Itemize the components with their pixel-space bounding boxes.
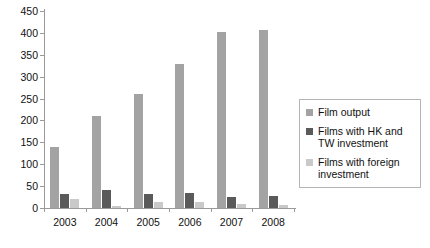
- legend-item-label: Films with foreign investment: [318, 156, 415, 180]
- bar: [60, 194, 69, 208]
- legend-item: Film output: [306, 106, 415, 118]
- bar: [195, 202, 204, 208]
- bar: [102, 190, 111, 208]
- legend-item-label: Film output: [318, 106, 370, 118]
- y-axis-label: 300: [20, 71, 38, 82]
- y-axis-tick: [40, 186, 44, 187]
- chart-legend: Film outputFilms with HK and TW investme…: [299, 99, 421, 188]
- y-axis-tick: [40, 33, 44, 34]
- bar: [70, 199, 79, 208]
- x-axis-label: 2005: [136, 217, 159, 228]
- x-axis-label: 2004: [95, 217, 118, 228]
- x-axis-label: 2008: [261, 217, 284, 228]
- legend-swatch-icon: [306, 159, 313, 166]
- y-axis-label: 350: [20, 50, 38, 61]
- x-axis-tick: [252, 208, 253, 212]
- x-axis-tick: [169, 208, 170, 212]
- bar: [154, 202, 163, 208]
- y-axis-tick: [40, 120, 44, 121]
- legend-item-label: Films with HK and TW investment: [318, 125, 415, 149]
- bar: [237, 204, 246, 208]
- y-axis-label: 250: [20, 93, 38, 104]
- bar: [269, 196, 278, 208]
- y-axis-tick: [40, 164, 44, 165]
- x-axis-label: 2006: [178, 217, 201, 228]
- y-axis-label: 450: [20, 6, 38, 17]
- x-axis-tick: [211, 208, 212, 212]
- plot-area: 050100150200250300350400450 200320042005…: [44, 11, 294, 208]
- bar: [92, 116, 101, 208]
- bar: [259, 30, 268, 208]
- y-axis-label: 0: [32, 203, 38, 214]
- y-axis-label: 400: [20, 28, 38, 39]
- legend-swatch-icon: [306, 109, 313, 116]
- x-axis-line: [40, 208, 296, 209]
- x-axis-tick: [294, 208, 295, 212]
- legend-swatch-icon: [306, 128, 313, 135]
- x-axis-tick: [86, 208, 87, 212]
- x-axis-label: 2007: [220, 217, 243, 228]
- legend-item: Films with foreign investment: [306, 156, 415, 180]
- bar: [227, 197, 236, 208]
- bar: [144, 194, 153, 208]
- bar: [185, 193, 194, 208]
- y-axis-label: 50: [26, 181, 38, 192]
- x-axis-tick: [44, 208, 45, 212]
- bar: [50, 147, 59, 208]
- y-axis-label: 200: [20, 115, 38, 126]
- bar: [134, 94, 143, 208]
- y-axis-tick: [40, 99, 44, 100]
- y-axis-tick: [40, 142, 44, 143]
- y-axis-tick: [40, 77, 44, 78]
- bar: [279, 205, 288, 209]
- x-axis-label: 2003: [53, 217, 76, 228]
- y-axis-tick: [40, 11, 44, 12]
- bar: [175, 64, 184, 208]
- y-axis-tick: [40, 55, 44, 56]
- y-axis-label: 150: [20, 137, 38, 148]
- bar: [217, 32, 226, 208]
- bar-chart: 050100150200250300350400450 200320042005…: [0, 0, 430, 248]
- legend-item: Films with HK and TW investment: [306, 125, 415, 149]
- x-axis-tick: [127, 208, 128, 212]
- y-axis-label: 100: [20, 159, 38, 170]
- bar: [112, 206, 121, 208]
